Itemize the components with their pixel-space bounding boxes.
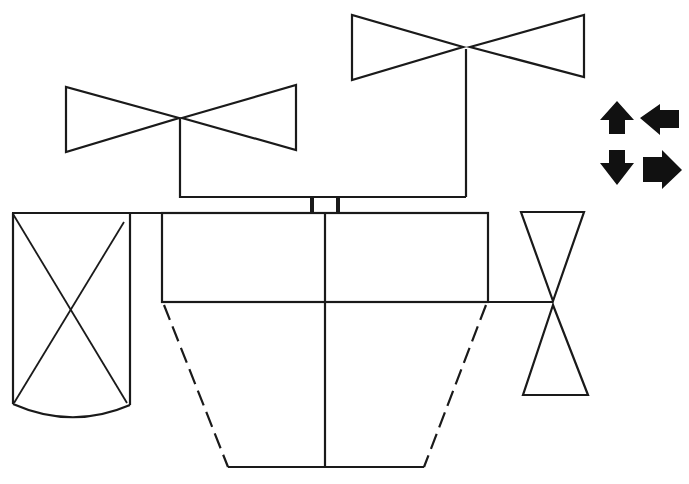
main-body-box [162, 213, 553, 467]
cabinet-arc-bottom [13, 404, 130, 417]
valve-left-triangle [66, 87, 179, 152]
hopper-right-side [424, 305, 486, 467]
valve-top-triangle [521, 212, 584, 301]
valve-right-triangle [470, 15, 584, 77]
arrow-down-icon [600, 150, 634, 185]
arrow-up-icon [600, 101, 634, 134]
direction-arrows [600, 101, 682, 189]
upper-right-valve [352, 15, 584, 80]
hopper-left-side [164, 305, 228, 467]
coupling [312, 197, 338, 213]
manifold-piping [180, 49, 466, 197]
arrow-right-icon [643, 150, 682, 189]
valve-right-triangle [182, 85, 296, 150]
cabinet-diagonal-1 [13, 214, 127, 403]
schematic-diagram [0, 0, 689, 484]
vertical-valve [521, 212, 588, 395]
side-cabinet [13, 213, 130, 417]
arrow-left-icon [640, 104, 679, 135]
valve-bottom-triangle [523, 305, 588, 395]
valve-left-triangle [352, 15, 463, 80]
cabinet-diagonal-2 [14, 222, 124, 403]
left-valve-stem [180, 119, 466, 197]
